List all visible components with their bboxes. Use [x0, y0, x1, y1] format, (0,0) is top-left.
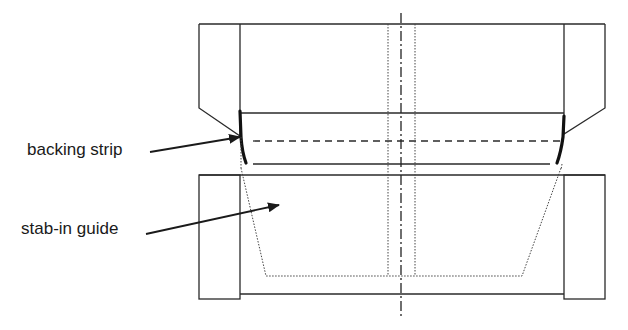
- stab-in-guide-label: stab-in guide: [21, 219, 118, 239]
- backing-strip-arrow: [150, 137, 240, 152]
- diagram-canvas: [0, 0, 628, 330]
- backing-strip-shape: [240, 111, 564, 163]
- upper-housing: [199, 24, 605, 164]
- backing-strip-label: backing strip: [27, 140, 122, 160]
- stab-in-guide-arrow: [146, 205, 279, 234]
- lower-housing: [199, 175, 605, 299]
